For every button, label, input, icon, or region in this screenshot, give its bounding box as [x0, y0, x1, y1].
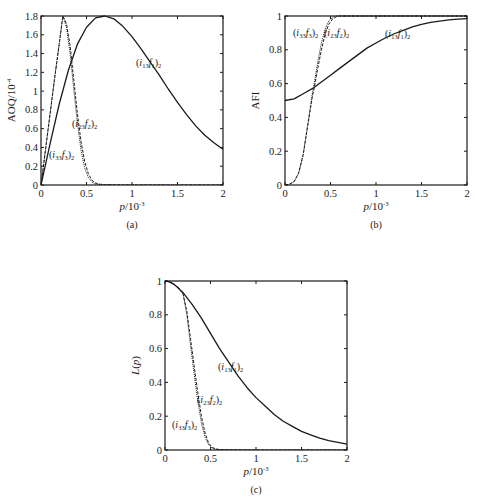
curve-i23f22	[285, 16, 467, 185]
x-tick-label: 1.5	[295, 453, 308, 464]
y-tick-label: 0.8	[149, 309, 162, 320]
x-tick-label: 1.5	[171, 188, 184, 199]
y-tick-label: 1.4	[25, 48, 39, 59]
x-tick-label: 1.5	[415, 188, 428, 199]
subplot-b: 00.511.5200.20.40.60.81p/10-3AFI(i33f3)2…	[249, 11, 470, 232]
curve-label: (i33f3)2	[172, 419, 197, 431]
x-tick-label: 2	[464, 188, 469, 199]
y-tick-label: 1	[277, 11, 282, 22]
curve-label: (i13f1)2	[136, 57, 161, 69]
y-tick-label: 0	[157, 445, 162, 456]
curve-label: (i23f2)2	[197, 394, 222, 406]
x-axis-label: p/10-3	[119, 200, 145, 212]
x-tick-label: 1	[253, 453, 258, 464]
y-tick-label: 0	[277, 180, 282, 191]
curve-label: (i23f2)2	[72, 118, 97, 130]
x-tick-label: 0	[38, 188, 43, 199]
y-tick-label: 0.2	[25, 161, 38, 172]
y-tick-label: 0	[33, 180, 38, 191]
subplot-a: 00.511.5200.20.40.60.811.21.41.61.8p/10-…	[5, 11, 226, 232]
y-tick-label: 0.8	[269, 44, 282, 55]
subplot-caption: (b)	[370, 219, 382, 231]
x-tick-label: 0.5	[204, 453, 217, 464]
x-tick-label: 1	[373, 188, 378, 199]
y-tick-label: 0.4	[269, 112, 283, 123]
curve-label: (i13f1)2	[385, 28, 410, 40]
curves	[285, 16, 467, 185]
curve-label: (i23f2)2	[324, 27, 349, 39]
y-tick-label: 0.6	[25, 123, 38, 134]
x-tick-label: 0	[282, 188, 287, 199]
y-axis-label: L(p)	[129, 356, 142, 376]
y-axis-label: AFI	[249, 91, 261, 109]
x-tick-label: 0.5	[80, 188, 93, 199]
curve-label: (i33f3)2	[49, 149, 74, 161]
plot-frame	[285, 16, 467, 185]
y-tick-label: 1	[157, 276, 162, 287]
y-tick-label: 0.6	[149, 343, 162, 354]
y-tick-label: 1.2	[25, 67, 38, 78]
y-tick-label: 1.8	[25, 11, 38, 22]
y-tick-label: 0.8	[25, 104, 38, 115]
y-tick-label: 0.2	[149, 411, 162, 422]
x-tick-label: 0	[162, 453, 167, 464]
x-axis-label: p/10-3	[363, 200, 389, 212]
curve-i33f32	[285, 16, 467, 185]
x-tick-label: 2	[220, 188, 225, 199]
x-axis-label: p/10-3	[243, 465, 269, 477]
y-tick-label: 1.6	[25, 29, 38, 40]
subplot-c: 00.511.5200.20.40.60.81p/10-3L(p)(i13f1)…	[129, 276, 350, 497]
y-tick-label: 0.6	[269, 78, 282, 89]
curve-label: (i33f3)2	[293, 27, 318, 39]
y-tick-label: 0.4	[149, 377, 163, 388]
subplot-caption: (a)	[126, 219, 137, 231]
figure: 00.511.5200.20.40.60.811.21.41.61.8p/10-…	[0, 0, 477, 500]
subplot-caption: (c)	[250, 484, 261, 496]
y-axis-label: AOQ/10-4	[5, 78, 17, 122]
y-tick-label: 0.4	[25, 142, 39, 153]
curve-label: (i13f1)2	[218, 361, 243, 373]
x-tick-label: 1	[129, 188, 134, 199]
x-tick-label: 2	[344, 453, 349, 464]
y-tick-label: 0.2	[269, 146, 282, 157]
y-tick-label: 1	[33, 86, 38, 97]
x-tick-label: 0.5	[324, 188, 337, 199]
